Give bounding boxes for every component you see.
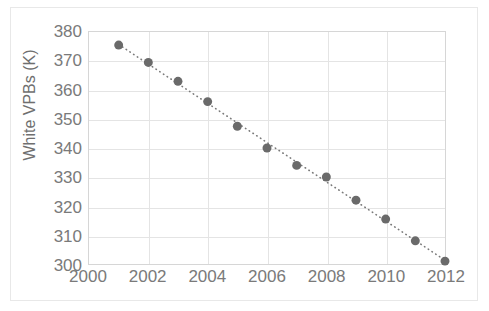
data-point (144, 58, 153, 67)
x-tick-label: 2006 (248, 268, 286, 285)
x-tick-label: 2000 (69, 268, 107, 285)
x-tick-label: 2004 (188, 268, 226, 285)
plot-area (88, 31, 446, 265)
data-point (411, 236, 420, 245)
y-tick-label: 330 (36, 169, 82, 186)
data-point (352, 196, 361, 205)
data-point (174, 77, 183, 86)
y-tick-label: 340 (36, 140, 82, 157)
y-tick-label: 310 (36, 227, 82, 244)
x-tick-label: 2008 (308, 268, 346, 285)
x-axis-tick-labels: 2000200220042006200820102012 (88, 268, 446, 294)
x-tick-label: 2010 (367, 268, 405, 285)
trendline (119, 44, 445, 260)
data-point (322, 173, 331, 182)
data-point (292, 161, 301, 170)
y-tick-label: 320 (36, 198, 82, 215)
data-point (203, 97, 212, 106)
y-tick-label: 370 (36, 52, 82, 69)
data-point (114, 41, 123, 50)
x-tick-label: 2012 (427, 268, 465, 285)
data-point (233, 122, 242, 131)
x-tick-label: 2002 (129, 268, 167, 285)
y-tick-label: 350 (36, 110, 82, 127)
data-point (441, 257, 450, 266)
y-axis-tick-labels: 300310320330340350360370380 (30, 31, 82, 265)
chart-figure: White VPBs (K) 3003103203303403503603703… (0, 0, 489, 311)
data-series-layer (89, 32, 445, 264)
data-point (263, 144, 272, 153)
y-tick-label: 360 (36, 81, 82, 98)
data-point (381, 215, 390, 224)
y-tick-label: 380 (36, 23, 82, 40)
